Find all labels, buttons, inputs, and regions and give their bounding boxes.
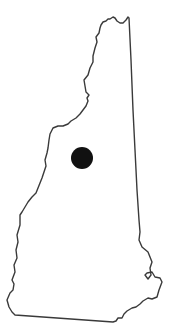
state-border bbox=[7, 17, 162, 322]
location-marker bbox=[71, 147, 93, 169]
state-outline-map bbox=[0, 0, 170, 335]
